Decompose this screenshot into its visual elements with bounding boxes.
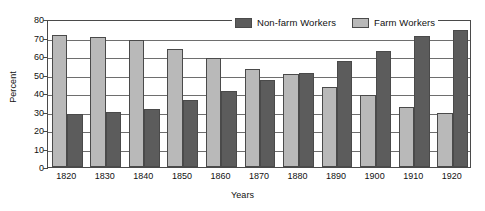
bar (322, 87, 337, 167)
y-axis-tick-label: 60 (22, 53, 44, 62)
x-axis-tick-label: 1870 (249, 171, 269, 181)
y-axis-tick-mark (43, 76, 48, 77)
bar (106, 112, 121, 167)
bar-group (87, 21, 126, 167)
legend-label: Farm Workers (374, 17, 435, 28)
y-axis-title: Percent (8, 57, 18, 117)
bar-group (241, 21, 280, 167)
legend-label: Non-farm Workers (257, 17, 336, 28)
bar-group (48, 21, 87, 167)
y-axis-tick-mark (43, 113, 48, 114)
bar (52, 35, 67, 167)
bar (245, 69, 260, 167)
legend-swatch-farm (352, 18, 369, 28)
x-axis-tick-label: 1900 (365, 171, 385, 181)
bar (167, 49, 182, 167)
bar (437, 113, 452, 167)
y-axis-tick-mark (43, 131, 48, 132)
bar (129, 40, 144, 167)
bar (299, 73, 314, 167)
legend-entry: Farm Workers (352, 17, 435, 28)
y-axis-tick-labels: 01020304050607080 (18, 0, 44, 211)
x-axis-tick-label: 1840 (133, 171, 153, 181)
x-axis-tick-label: 1860 (210, 171, 230, 181)
bar (206, 58, 221, 167)
x-axis-title: Years (0, 190, 485, 200)
bar (260, 80, 275, 167)
bar (67, 114, 82, 167)
legend-entry: Non-farm Workers (235, 17, 336, 28)
y-axis-tick-label: 50 (22, 71, 44, 80)
y-axis-tick-label: 40 (22, 90, 44, 99)
bar (221, 91, 236, 167)
y-axis-tick-label: 80 (22, 16, 44, 25)
x-axis-tick-label: 1920 (442, 171, 462, 181)
chart-legend: Non-farm WorkersFarm Workers (232, 15, 438, 30)
bar-group (318, 21, 357, 167)
bar-group (395, 21, 434, 167)
y-axis-tick-mark (43, 94, 48, 95)
x-axis-tick-label: 1830 (95, 171, 115, 181)
bar (453, 30, 468, 167)
x-axis-tick-label: 1910 (403, 171, 423, 181)
x-axis-tick-label: 1850 (172, 171, 192, 181)
x-axis-tick-label: 1880 (288, 171, 308, 181)
bar-group (433, 21, 472, 167)
bar-group (125, 21, 164, 167)
y-axis-tick-mark (43, 39, 48, 40)
x-axis-tick-label: 1890 (326, 171, 346, 181)
bar (144, 109, 159, 167)
y-axis-tick-mark (43, 150, 48, 151)
bar (183, 100, 198, 167)
y-axis-tick-mark (43, 168, 48, 169)
bar-chart: Percent 01020304050607080 18201830184018… (0, 0, 485, 211)
bar-group (356, 21, 395, 167)
plot-area (47, 20, 471, 168)
bar (283, 74, 298, 167)
legend-swatch-nonfarm (235, 18, 252, 28)
y-axis-tick-label: 20 (22, 127, 44, 136)
bar (90, 37, 105, 167)
y-axis-tick-label: 0 (22, 164, 44, 173)
bar (360, 95, 375, 167)
y-axis-tick-label: 70 (22, 34, 44, 43)
y-axis-tick-label: 10 (22, 145, 44, 154)
y-axis-tick-label: 30 (22, 108, 44, 117)
x-axis-tick-labels: 1820183018401850186018701880189019001910… (47, 171, 471, 185)
bar-group (164, 21, 203, 167)
bar (376, 51, 391, 167)
bar (399, 107, 414, 167)
y-axis-tick-mark (43, 57, 48, 58)
bar-group (202, 21, 241, 167)
x-axis-tick-label: 1820 (56, 171, 76, 181)
bar (414, 36, 429, 167)
bar-group (279, 21, 318, 167)
bar (337, 61, 352, 167)
y-axis-tick-mark (43, 20, 48, 21)
